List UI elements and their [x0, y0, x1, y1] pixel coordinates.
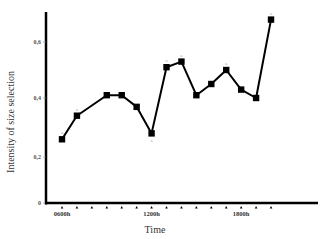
x-tick-marker	[225, 206, 228, 209]
data-series: aaaaaaa	[59, 11, 274, 144]
significance-annotation: a	[225, 61, 228, 66]
y-tick-label: 0,6	[34, 39, 42, 45]
significance-annotation: a	[180, 53, 183, 58]
x-tick-marker	[91, 206, 94, 209]
x-tick-label: 1200h	[143, 210, 160, 217]
significance-annotation: a	[150, 138, 153, 143]
x-tick-marker	[120, 206, 123, 209]
data-point-marker	[223, 67, 229, 73]
x-tick-marker	[105, 206, 108, 209]
x-tick-marker	[240, 206, 243, 209]
y-tick-label: 0	[38, 200, 41, 206]
x-tick-marker	[270, 206, 273, 209]
x-tick-marker	[165, 206, 168, 209]
data-point-marker	[208, 81, 214, 87]
y-tick-label: 0,2	[34, 154, 42, 160]
x-tick-marker	[255, 206, 258, 209]
significance-annotation: a	[61, 130, 64, 135]
significance-annotation: a	[76, 107, 79, 112]
significance-annotation: a	[165, 58, 168, 63]
x-tick-label: 0600h	[54, 210, 71, 217]
x-tick-label: 1800h	[233, 210, 250, 217]
y-tick-label: 0,4	[34, 95, 42, 101]
y-axis-title: Intensity of size selection	[5, 71, 16, 173]
data-point-marker	[178, 58, 184, 64]
data-point-marker	[104, 92, 110, 98]
x-tick-marker	[135, 206, 138, 209]
y-axis: 00,20,40,6	[34, 12, 47, 206]
data-point-marker	[119, 92, 125, 98]
data-point-marker	[133, 104, 139, 110]
series-line	[62, 20, 271, 140]
x-tick-marker	[210, 206, 213, 209]
data-point-marker	[253, 95, 259, 101]
data-point-marker	[74, 113, 80, 119]
x-axis-title: Time	[145, 224, 166, 235]
x-axis: 0600h1200h1800h	[45, 203, 318, 217]
x-tick-marker	[76, 206, 79, 209]
x-tick-marker	[195, 206, 198, 209]
data-point-marker	[193, 92, 199, 98]
data-point-marker	[238, 86, 244, 92]
x-tick-marker	[61, 206, 64, 209]
data-point-marker	[163, 64, 169, 70]
x-tick-marker	[150, 206, 153, 209]
line-chart: 00,20,40,6 0600h1200h1800h aaaaaaa Time …	[0, 0, 321, 239]
significance-annotation: a	[270, 11, 273, 16]
data-point-marker	[59, 136, 65, 142]
data-point-marker	[148, 130, 154, 136]
x-tick-marker	[180, 206, 183, 209]
data-point-marker	[268, 16, 274, 22]
